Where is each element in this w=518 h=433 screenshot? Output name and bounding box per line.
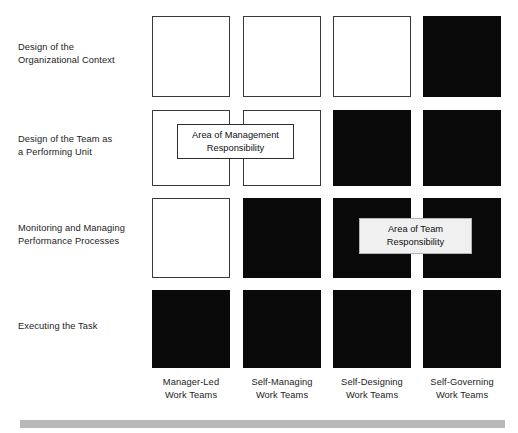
- matrix-cell-r4c1: [152, 290, 230, 368]
- matrix-cell-r1c2: [243, 16, 321, 97]
- matrix-cell-r3c2: [243, 198, 321, 278]
- team-authority-matrix-figure: Design of the Organizational Context Des…: [0, 0, 518, 433]
- matrix-cell-r2c3: [333, 110, 411, 186]
- footer-divider-bar: [20, 420, 505, 428]
- row-label-design-organizational-context: Design of the Organizational Context: [18, 41, 148, 67]
- row-label-monitoring-managing-performance: Monitoring and Managing Performance Proc…: [18, 222, 158, 248]
- column-label-manager-led-work-teams: Manager-Led Work Teams: [152, 376, 230, 402]
- callout-area-of-management-responsibility: Area of Management Responsibility: [177, 124, 294, 159]
- matrix-cell-r1c3: [333, 16, 411, 97]
- row-label-executing-the-task: Executing the Task: [18, 320, 158, 333]
- matrix-cell-r4c4: [423, 290, 501, 368]
- matrix-cell-r1c4: [423, 16, 501, 97]
- matrix-cell-r3c1: [152, 198, 230, 278]
- matrix-cell-r1c1: [152, 16, 230, 97]
- column-label-self-managing-work-teams: Self-Managing Work Teams: [243, 376, 321, 402]
- matrix-cell-r4c2: [243, 290, 321, 368]
- column-label-self-governing-work-teams: Self-Governing Work Teams: [423, 376, 501, 402]
- row-label-design-team-performing-unit: Design of the Team as a Performing Unit: [18, 133, 148, 159]
- matrix-cell-r2c4: [423, 110, 501, 186]
- column-label-self-designing-work-teams: Self-Designing Work Teams: [333, 376, 411, 402]
- matrix-cell-r4c3: [333, 290, 411, 368]
- callout-area-of-team-responsibility: Area of Team Responsibility: [359, 218, 472, 254]
